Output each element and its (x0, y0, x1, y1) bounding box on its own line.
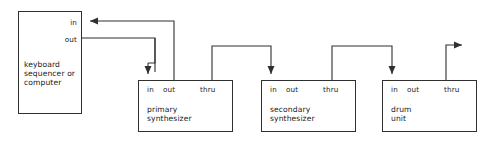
secondary-title-line-2: synthesizer (270, 114, 315, 123)
primary-title-line-2: synthesizer (147, 114, 192, 123)
drum-port-in-label: in (391, 86, 398, 94)
midi-chain-diagram: in out keyboard sequencer or computer in… (0, 0, 494, 141)
secondary-title: secondary synthesizer (270, 105, 315, 123)
source-title-line-3: computer (24, 78, 75, 87)
source-port-out-label: out (65, 36, 77, 44)
drum-port-thru-label: thru (444, 86, 459, 94)
primary-title-line-1: primary (147, 105, 192, 114)
drum-title-line-2: unit (391, 114, 412, 123)
drum-port-out-label: out (407, 86, 419, 94)
secondary-title-line-1: secondary (270, 105, 315, 114)
wire-primary-out-to-source-in (90, 21, 174, 80)
secondary-port-out-label: out (286, 86, 298, 94)
secondary-port-thru-label: thru (323, 86, 338, 94)
drum-title: drum unit (391, 105, 412, 123)
node-drum-unit[interactable]: in out thru drum unit (382, 80, 477, 132)
source-port-in-label: in (70, 19, 77, 27)
secondary-port-in-label: in (270, 86, 277, 94)
wire-secondary-thru-to-drum-in (332, 46, 392, 80)
primary-title: primary synthesizer (147, 105, 192, 123)
source-title-line-1: keyboard (24, 60, 75, 69)
wire-source-out-to-primary-in (81, 38, 155, 74)
wire-primary-thru-to-secondary-in (212, 46, 271, 80)
source-title: keyboard sequencer or computer (24, 60, 75, 88)
source-title-line-2: sequencer or (24, 69, 75, 78)
wire-drum-thru-out (446, 45, 462, 80)
drum-title-line-1: drum (391, 105, 412, 114)
primary-port-in-label: in (147, 86, 154, 94)
primary-port-out-label: out (163, 86, 175, 94)
node-secondary-synthesizer[interactable]: in out thru secondary synthesizer (261, 80, 356, 132)
primary-port-thru-label: thru (200, 86, 215, 94)
node-primary-synthesizer[interactable]: in out thru primary synthesizer (138, 80, 233, 132)
node-source[interactable]: in out keyboard sequencer or computer (18, 11, 82, 114)
